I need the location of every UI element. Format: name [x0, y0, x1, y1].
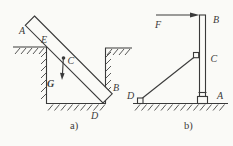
column-foot: [198, 97, 208, 104]
label-a-C: C: [68, 55, 75, 66]
label-b-A: A: [216, 90, 224, 101]
label-a-G: G: [47, 78, 55, 89]
figure-b: F B C D A b): [126, 13, 228, 132]
figure-b-caption: b): [184, 120, 193, 132]
ground-hatching-b: [135, 105, 225, 111]
column: [200, 15, 206, 104]
diagram-svg: A E C G B D a) F B C D A b): [0, 0, 233, 146]
label-a-A: A: [18, 25, 26, 36]
label-b-F: F: [154, 19, 162, 30]
mechanics-diagram: A E C G B D a) F B C D A b): [0, 0, 233, 146]
label-b-C: C: [211, 53, 218, 64]
figure-a: A E C G B D a): [13, 16, 132, 132]
label-a-E: E: [40, 34, 47, 45]
brace-pin-d: [138, 98, 144, 104]
figure-a-caption: a): [70, 120, 79, 132]
label-b-D: D: [126, 90, 135, 101]
force-f-arrowhead-icon: [190, 13, 200, 18]
gravity-vector-arrowhead-icon: [60, 73, 65, 80]
label-a-D: D: [90, 110, 99, 121]
brace-line: [143, 57, 196, 99]
wall-hatching-left: [41, 52, 46, 99]
brace-pin-c: [194, 53, 199, 58]
label-b-B: B: [213, 14, 219, 25]
label-a-B: B: [113, 82, 119, 93]
ground-hatching-left: [15, 48, 44, 54]
